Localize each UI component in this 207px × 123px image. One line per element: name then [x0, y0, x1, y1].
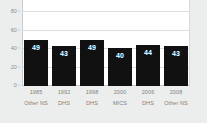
x-axis-label-group: 2008 Other NS — [160, 88, 192, 107]
y-tick-mark-60 — [18, 29, 20, 30]
y-axis: 100 80 60 40 20 0 — [0, 0, 20, 86]
bar-value-label: 40 — [108, 52, 132, 60]
bar-value-label: 43 — [52, 50, 76, 58]
bar[interactable]: 40 — [108, 48, 132, 86]
bar-slot: 40 — [108, 0, 132, 86]
bar-slot: 43 — [164, 0, 188, 86]
bar[interactable]: 44 — [136, 45, 160, 86]
y-tick-label-20: 20 — [11, 64, 17, 70]
bar-slot: 43 — [52, 0, 76, 86]
bars-layer: 49 43 49 40 44 43 — [22, 0, 190, 86]
bar-chart: 100 80 60 40 20 0 49 43 49 — [0, 0, 207, 123]
y-tick-mark-20 — [18, 67, 20, 68]
bar[interactable]: 49 — [24, 40, 48, 86]
bar-slot: 49 — [80, 0, 104, 86]
y-tick-mark-0 — [18, 85, 20, 86]
bar-value-label: 49 — [80, 44, 104, 52]
y-tick-label-40: 40 — [11, 45, 17, 51]
bar-value-label: 49 — [24, 44, 48, 52]
y-tick-label-60: 60 — [11, 27, 17, 33]
bar[interactable]: 43 — [52, 46, 76, 87]
y-tick-mark-80 — [18, 10, 20, 11]
bar[interactable]: 49 — [80, 40, 104, 86]
x-axis: 1985 Other NS 1992 DHS 1998 DHS 2000 MIC… — [22, 88, 190, 122]
bar-slot: 44 — [136, 0, 160, 86]
y-tick-label-0: 0 — [14, 82, 17, 88]
y-tick-mark-40 — [18, 48, 20, 49]
bar[interactable]: 43 — [164, 46, 188, 87]
bar-value-label: 44 — [136, 49, 160, 57]
x-axis-label-year: 2008 — [160, 88, 192, 96]
x-axis-label-source: Other NS — [160, 99, 192, 107]
bar-slot: 49 — [24, 0, 48, 86]
bar-value-label: 43 — [164, 50, 188, 58]
y-tick-label-80: 80 — [11, 8, 17, 14]
